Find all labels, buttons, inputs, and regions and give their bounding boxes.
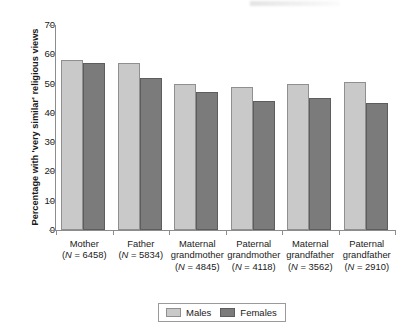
- x-tick-mark: [113, 230, 114, 235]
- x-axis-line: [55, 230, 395, 231]
- y-tick-mark: [49, 25, 55, 26]
- category-name-line: Paternal: [331, 238, 404, 249]
- bar-females-5: [366, 103, 388, 230]
- bar-females-0: [83, 63, 105, 230]
- legend-label: Males: [186, 307, 211, 318]
- bar-males-2: [174, 84, 196, 230]
- bar-males-3: [231, 87, 253, 231]
- bar-chart-figure: Percentage with 'very similar' religious…: [0, 0, 413, 330]
- legend-item-males[interactable]: Males: [166, 307, 211, 318]
- x-tick-mark: [282, 230, 283, 235]
- bar-females-1: [140, 78, 162, 230]
- legend-swatch-icon: [166, 308, 181, 317]
- bar-females-2: [196, 92, 218, 230]
- x-tick-mark: [56, 230, 57, 235]
- y-axis-line: [55, 25, 56, 231]
- y-tick-mark: [49, 201, 55, 202]
- legend-item-females[interactable]: Females: [220, 307, 276, 318]
- x-tick-mark: [226, 230, 227, 235]
- y-tick-mark: [49, 113, 55, 114]
- x-axis-label-5: Paternalgrandfather(N = 2910): [331, 238, 404, 272]
- bar-females-3: [253, 101, 275, 230]
- y-tick-mark: [49, 84, 55, 85]
- legend-swatch-icon: [220, 308, 235, 317]
- bar-males-1: [118, 63, 140, 230]
- y-tick-mark: [49, 230, 55, 231]
- y-tick-mark: [49, 142, 55, 143]
- plot-area: 010203040506070: [0, 0, 413, 330]
- y-tick-mark: [49, 54, 55, 55]
- bar-males-0: [61, 60, 83, 230]
- category-name-line: grandfather: [331, 249, 404, 260]
- legend-label: Females: [240, 307, 276, 318]
- bar-males-5: [344, 82, 366, 230]
- y-tick-mark: [49, 171, 55, 172]
- bar-males-4: [287, 84, 309, 230]
- x-tick-mark: [339, 230, 340, 235]
- x-tick-mark: [169, 230, 170, 235]
- x-tick-mark: [395, 230, 396, 235]
- legend: MalesFemales: [158, 303, 286, 322]
- sample-size-label: (N = 2910): [331, 261, 404, 272]
- bar-females-4: [309, 98, 331, 230]
